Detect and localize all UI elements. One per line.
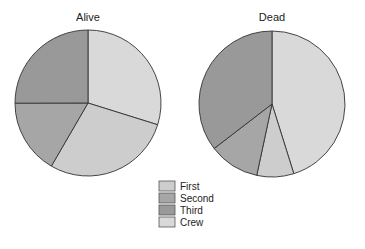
legend-swatch-second: [159, 193, 175, 203]
legend-swatch-third: [159, 205, 175, 215]
legend-label-crew: Crew: [180, 217, 204, 228]
legend-label-third: Third: [180, 205, 203, 216]
pie-chart-figure: Alive Dead FirstSecondThirdCrew: [0, 0, 365, 249]
pie-dead: [199, 31, 345, 177]
pie-title-alive: Alive: [76, 11, 100, 23]
legend-swatch-first: [159, 181, 175, 191]
legend-label-first: First: [180, 181, 200, 192]
legend-label-second: Second: [180, 193, 214, 204]
pie-slice-third: [15, 30, 88, 103]
legend-swatch-crew: [159, 217, 175, 227]
legend: FirstSecondThirdCrew: [159, 181, 214, 228]
pie-alive: [15, 30, 161, 176]
pie-title-dead: Dead: [259, 11, 285, 23]
